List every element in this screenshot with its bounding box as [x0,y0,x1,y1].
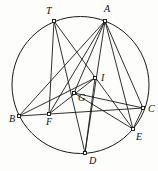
segment-C-E [133,108,143,129]
vertex-marker-a [104,20,107,23]
geometry-figure: TABCDEFGI [0,0,158,171]
vertex-label-d: D [88,155,97,166]
vertex-marker-b [18,115,21,118]
vertex-label-t: T [46,5,53,16]
vertex-marker-d [84,152,87,155]
vertex-marker-t [53,20,56,23]
vertex-label-f: F [45,116,53,127]
segment-B-C [19,108,143,116]
geometry-canvas: TABCDEFGI [0,0,158,171]
vertex-label-c: C [148,103,155,114]
segment-layer [19,21,143,153]
vertex-label-b: B [9,113,15,124]
vertex-marker-c [142,107,145,110]
vertex-label-g: G [78,92,85,103]
vertex-marker-g [73,92,76,95]
vertex-marker-e [132,128,135,131]
vertex-label-a: A [103,3,111,14]
vertex-label-i: I [100,72,105,83]
segment-D-I [85,78,95,153]
vertex-marker-i [94,77,97,80]
vertex-label-e: E [135,131,142,142]
segment-T-D [54,21,85,153]
